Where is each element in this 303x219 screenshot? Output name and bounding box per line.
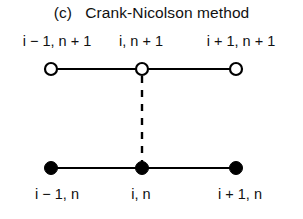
node-label-top-right: i + 1, n + 1: [207, 33, 276, 49]
node-open-top-center: [136, 63, 148, 75]
node-filled-bottom-center: [136, 162, 149, 175]
crank-nicolson-stencil-figure: (c) Crank-Nicolson method i − 1, n + 1 i…: [0, 0, 303, 219]
node-open-top-right: [230, 63, 242, 75]
node-label-top-left: i − 1, n + 1: [23, 33, 92, 49]
node-open-top-left: [45, 63, 57, 75]
node-label-bottom-left: i − 1, n: [35, 186, 79, 202]
node-filled-bottom-left: [45, 162, 58, 175]
node-label-top-center: i, n + 1: [119, 33, 163, 49]
node-label-bottom-right: i + 1, n: [218, 186, 262, 202]
node-label-bottom-center: i, n: [131, 186, 150, 202]
node-filled-bottom-right: [230, 162, 243, 175]
